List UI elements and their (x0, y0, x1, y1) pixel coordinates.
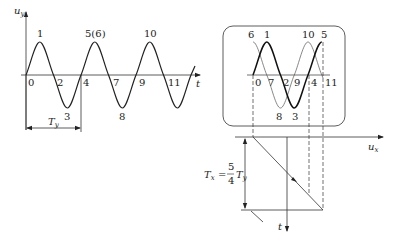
screen-label-4: 4 (311, 77, 317, 88)
screen-label-10: 10 (302, 29, 315, 40)
screen-label-7: 7 (268, 77, 274, 88)
sweep-diagonal (253, 137, 323, 210)
left-plot: uy t Ty 0 1 2 3 4 5(6) 7 8 9 10 11 (14, 5, 201, 132)
oscilloscope-screen (223, 26, 345, 126)
point-label-10: 10 (144, 28, 157, 39)
screen-label-1: 1 (264, 29, 270, 40)
ux-axis-label: ux (368, 141, 378, 154)
formula-lhs: Tx (204, 169, 215, 182)
screen-label-6: 6 (248, 29, 254, 40)
screen-label-5: 5 (321, 29, 327, 40)
screen-label-11: 11 (325, 77, 338, 88)
formula-numerator: 5 (228, 161, 234, 172)
point-label-4: 4 (83, 77, 89, 88)
screen-label-0: 0 (255, 77, 261, 88)
tx-formula: Tx = 5 4 Ty (204, 161, 248, 186)
screen-label-8: 8 (276, 111, 282, 122)
formula-denominator: 4 (228, 175, 234, 186)
point-label-2: 2 (57, 77, 63, 88)
point-label-3: 3 (64, 111, 70, 122)
screen-label-3: 3 (292, 111, 298, 122)
point-label-5-6: 5(6) (85, 28, 106, 39)
screen-label-9: 9 (294, 77, 300, 88)
point-label-7: 7 (113, 77, 119, 88)
right-plot: 0 1 2 3 4 5 6 7 8 9 10 11 ux t Tx = 5 (204, 26, 383, 232)
point-label-1: 1 (37, 28, 43, 39)
screen-label-2: 2 (283, 77, 289, 88)
formula-eq: = (218, 169, 226, 180)
point-label-0: 0 (28, 77, 34, 88)
period-ty-label: Ty (48, 116, 60, 129)
uy-axis-label: uy (14, 5, 25, 18)
point-label-8: 8 (119, 111, 125, 122)
flyback-tick (251, 211, 263, 222)
formula-rhs: Ty (236, 169, 248, 182)
point-label-11: 11 (168, 77, 181, 88)
t-axis-label-right: t (278, 221, 283, 232)
point-label-9: 9 (139, 77, 145, 88)
lissajous-diagram: uy t Ty 0 1 2 3 4 5(6) 7 8 9 10 11 (0, 0, 394, 243)
t-axis-label-left: t (196, 78, 201, 89)
